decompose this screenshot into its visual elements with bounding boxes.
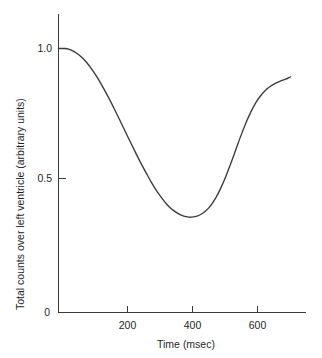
x-tick-label-400: 400 xyxy=(184,319,202,331)
y-tick-label-0.5: 0.5 xyxy=(37,172,52,184)
y-axis-label: Total counts over left ventricle (arbitr… xyxy=(14,98,26,310)
x-axis-label: Time (msec) xyxy=(157,338,215,350)
y-tick-label-1.0: 1.0 xyxy=(37,42,52,54)
chart-figure: Total counts over left ventricle (arbitr… xyxy=(0,0,322,358)
time-activity-curve xyxy=(59,48,291,217)
x-tick-label-600: 600 xyxy=(249,319,267,331)
x-tick-label-200: 200 xyxy=(119,319,137,331)
y-tick-label-0: 0 xyxy=(44,306,50,318)
